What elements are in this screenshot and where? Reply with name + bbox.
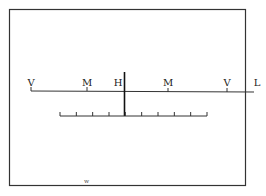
- axis-label-h-2: H: [114, 77, 123, 88]
- lower-scale-ticks: [60, 112, 207, 116]
- main-axis-line: [31, 91, 254, 92]
- axis-label-v-4: V: [222, 77, 231, 88]
- axis-label-l-5: L: [254, 77, 261, 88]
- footer-mark: w: [84, 177, 90, 184]
- axis-label-m-1: M: [82, 77, 92, 88]
- axis-label-v-0: V: [26, 77, 35, 88]
- diagram-canvas: VMHMVL w: [0, 0, 266, 196]
- frame-border: [10, 10, 246, 186]
- axis-labels: VMHMVL: [26, 77, 260, 88]
- axis-label-m-3: M: [163, 77, 173, 88]
